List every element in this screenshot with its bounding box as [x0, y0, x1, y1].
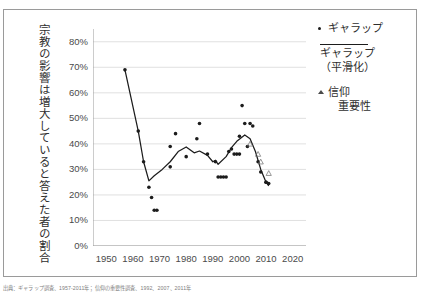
legend-item-gallup-smoothed[interactable]: ギャラップ （平滑化） — [318, 44, 414, 74]
legend-label-gallup: ギャラップ — [318, 22, 414, 35]
legend-label-faith-2: 重要性 — [318, 100, 414, 113]
legend-item-faith-importance[interactable]: 信仰 重要性 — [318, 86, 414, 113]
y-tick-label: 50% — [54, 112, 88, 123]
plot-area — [93, 29, 306, 246]
data-point — [168, 145, 172, 149]
legend-label-faith-1: 信仰 — [318, 86, 414, 99]
y-axis-title: 宗教の影響は増大していると答えた者の割合 — [21, 24, 49, 258]
data-point — [240, 104, 244, 108]
y-tick-label: 10% — [54, 214, 88, 225]
y-tick-label: 40% — [54, 138, 88, 149]
data-point — [198, 122, 202, 126]
triangle-marker-icon — [318, 90, 324, 94]
data-point — [150, 196, 154, 200]
data-point — [174, 132, 178, 136]
dot-marker-icon — [318, 27, 321, 30]
y-tick-label: 70% — [54, 61, 88, 72]
data-point — [251, 124, 255, 128]
data-point — [184, 155, 188, 159]
data-point — [243, 122, 247, 126]
source-caption: 出典：ギャラップ調査、1957-2011年；信仰の重要性調査、1992、2007… — [3, 284, 421, 291]
data-point — [195, 137, 199, 141]
legend-label-gallup-smoothed-2: （平滑化） — [318, 61, 414, 74]
data-point — [147, 185, 151, 189]
chart-figure: 宗教の影響は増大していると答えた者の割合 0%10%20%30%40%50%60… — [0, 0, 424, 295]
y-tick-label: 20% — [54, 189, 88, 200]
y-tick-label: 80% — [54, 36, 88, 47]
data-point — [238, 152, 242, 156]
x-tick-label: 2020 — [276, 253, 310, 264]
data-point — [155, 208, 159, 212]
series-line-ギャラップ（平滑化） — [125, 70, 269, 186]
data-point — [248, 122, 252, 126]
line-marker-icon — [320, 44, 368, 45]
data-point — [168, 165, 172, 169]
legend-item-gallup[interactable]: ギャラップ — [318, 22, 414, 35]
y-tick-label: 0% — [54, 240, 88, 251]
plot-svg — [93, 29, 306, 246]
data-point — [224, 175, 228, 179]
data-point — [246, 145, 250, 149]
y-tick-label: 60% — [54, 87, 88, 98]
legend-label-gallup-smoothed-1: ギャラップ — [318, 47, 414, 60]
data-point-triangle — [266, 171, 271, 176]
y-tick-label: 30% — [54, 163, 88, 174]
chart-legend: ギャラップ ギャラップ （平滑化） 信仰 重要性 — [318, 22, 414, 115]
